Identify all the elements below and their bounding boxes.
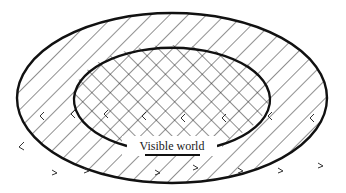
visible-world-label: Visible world bbox=[127, 138, 217, 154]
arrowhead-icon bbox=[318, 163, 323, 168]
arrowhead-icon bbox=[19, 142, 24, 150]
arrowhead-icon bbox=[52, 170, 57, 175]
inner-region bbox=[73, 45, 269, 149]
arrowhead-icon bbox=[278, 168, 283, 173]
ellipse-diagram bbox=[0, 0, 346, 193]
diagram-canvas: Visible world bbox=[0, 0, 346, 193]
